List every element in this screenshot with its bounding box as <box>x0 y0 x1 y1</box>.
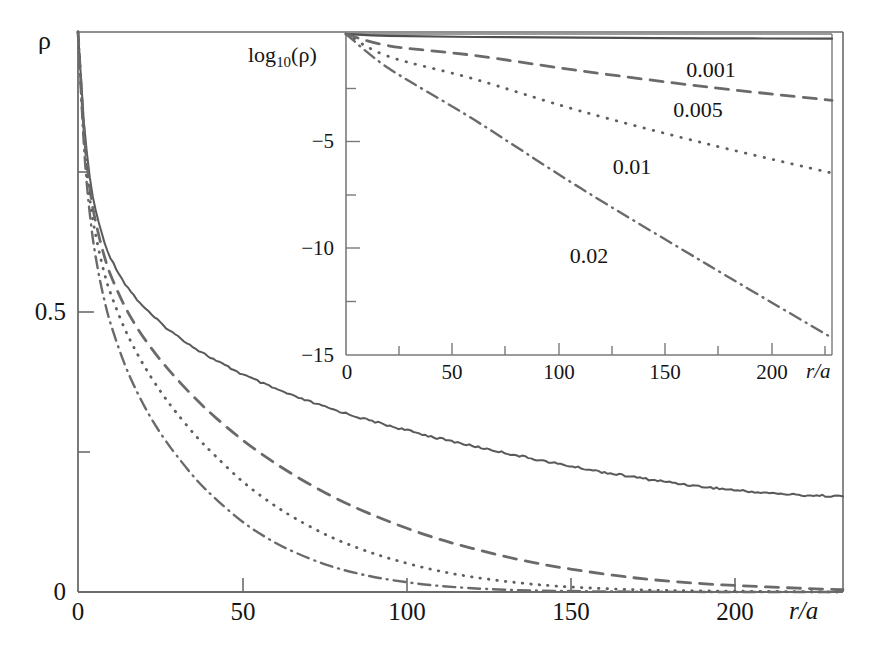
inset-xtick-label-100: 100 <box>532 360 586 385</box>
inset-ytick-label--10: −10 <box>264 236 334 261</box>
inset-xtick-label-0: 0 <box>332 360 362 385</box>
inset-y-axis-label: log10(ρ) <box>248 42 317 71</box>
curve-label-0.005: 0.005 <box>655 97 741 123</box>
inset-ylabel-base: 10 <box>276 54 291 70</box>
inset-x-ticks <box>399 343 825 355</box>
inset-ylabel-arg: (ρ) <box>291 42 317 67</box>
main-xtick-label-150: 150 <box>539 598 603 626</box>
main-x-axis-label: r/a <box>789 597 818 625</box>
plot-canvas <box>0 0 880 661</box>
curve-label-0.001: 0.001 <box>668 57 754 83</box>
inset-x-axis-label: r/a <box>806 359 831 384</box>
main-xtick-label-200: 200 <box>703 598 767 626</box>
curve-0.005-inset <box>346 34 832 100</box>
curve-label-0.01: 0.01 <box>596 154 668 180</box>
curve-label-0.02: 0.02 <box>553 243 625 269</box>
main-xtick-label-100: 100 <box>375 598 439 626</box>
main-xtick-label-0: 0 <box>58 598 98 626</box>
inset-xtick-label-50: 50 <box>430 360 474 385</box>
main-xtick-label-50: 50 <box>218 598 268 626</box>
curve-0.001-inset <box>346 34 832 39</box>
inset-plot-axes <box>346 34 832 355</box>
inset-ylabel-log: log <box>248 42 276 67</box>
figure-container: ρ 0.5 0 0 50 100 150 200 r/a log10(ρ) −5… <box>0 0 880 661</box>
main-y-ticks <box>78 172 94 452</box>
inset-plot-curves <box>346 34 832 338</box>
inset-y-ticks <box>346 89 360 302</box>
main-y-axis-label: ρ <box>38 26 51 56</box>
inset-xtick-label-200: 200 <box>745 360 799 385</box>
curve-0.01-inset <box>346 34 832 173</box>
inset-ytick-label--15: −15 <box>264 343 334 368</box>
main-ytick-label-0.5: 0.5 <box>10 298 66 326</box>
inset-xtick-label-150: 150 <box>638 360 692 385</box>
inset-ytick-label--5: −5 <box>274 129 334 154</box>
curve-0.02-inset <box>346 34 832 338</box>
